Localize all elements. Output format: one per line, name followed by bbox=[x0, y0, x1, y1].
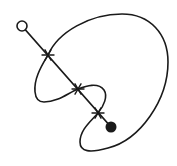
closed-curve bbox=[35, 14, 168, 151]
start-open-circle-icon bbox=[17, 21, 27, 31]
diagram-canvas bbox=[0, 0, 177, 166]
end-filled-circle-icon bbox=[106, 122, 117, 133]
